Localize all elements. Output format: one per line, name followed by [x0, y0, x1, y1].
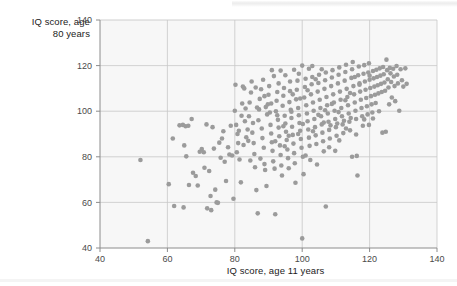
- data-point: [344, 62, 349, 67]
- data-point: [202, 165, 207, 170]
- data-point: [295, 87, 300, 92]
- data-point: [400, 78, 405, 83]
- x-tick-label: 140: [429, 254, 444, 264]
- data-point: [248, 158, 253, 163]
- data-point: [368, 86, 373, 91]
- data-point: [276, 118, 281, 123]
- data-point: [313, 133, 318, 138]
- data-point: [320, 130, 325, 135]
- data-point: [193, 174, 198, 179]
- data-point: [181, 205, 186, 210]
- data-point: [339, 106, 344, 111]
- data-point: [404, 82, 409, 87]
- data-point: [261, 145, 266, 150]
- data-point: [393, 99, 398, 104]
- data-point: [386, 85, 391, 90]
- data-point: [309, 92, 314, 97]
- data-point: [364, 96, 369, 101]
- data-point: [387, 102, 392, 107]
- data-point: [294, 97, 299, 102]
- data-point: [323, 78, 328, 83]
- data-point: [350, 60, 355, 65]
- data-point: [290, 92, 295, 97]
- data-point: [330, 75, 335, 80]
- data-point: [363, 79, 368, 84]
- data-point: [383, 88, 388, 93]
- data-point: [348, 91, 353, 96]
- data-point: [213, 187, 218, 192]
- data-point: [342, 118, 347, 123]
- data-point: [212, 146, 217, 151]
- data-point: [263, 168, 268, 173]
- data-point: [361, 72, 366, 77]
- data-point: [354, 154, 359, 159]
- data-point: [230, 153, 235, 158]
- data-point: [202, 150, 207, 155]
- data-point: [333, 149, 338, 154]
- data-point: [315, 162, 320, 167]
- data-point: [403, 66, 408, 71]
- data-point: [237, 129, 242, 134]
- data-point: [256, 118, 261, 123]
- data-point: [273, 139, 278, 144]
- data-point: [315, 89, 320, 94]
- data-point: [311, 108, 316, 113]
- x-tick-label: 100: [295, 254, 310, 264]
- data-point: [204, 122, 209, 127]
- data-point: [218, 155, 223, 160]
- data-point: [278, 153, 283, 158]
- data-point: [381, 72, 386, 77]
- data-point: [327, 145, 332, 150]
- data-point: [170, 136, 175, 141]
- data-point: [389, 80, 394, 85]
- data-point: [304, 103, 309, 108]
- data-point: [292, 161, 297, 166]
- data-point: [260, 136, 265, 141]
- data-point: [344, 87, 349, 92]
- x-axis-label: IQ score, age 11 years: [227, 265, 325, 276]
- data-point: [205, 206, 210, 211]
- data-point: [344, 126, 349, 131]
- data-point: [350, 67, 355, 72]
- data-point: [271, 159, 276, 164]
- data-point: [323, 204, 328, 209]
- y-tick-label: 140: [77, 15, 92, 25]
- data-point: [383, 129, 388, 134]
- data-point: [365, 104, 370, 109]
- data-point: [278, 68, 283, 73]
- data-point: [346, 103, 351, 108]
- data-point: [336, 81, 341, 86]
- data-point: [355, 173, 360, 178]
- data-point: [362, 117, 367, 122]
- data-point: [281, 93, 286, 98]
- data-point: [382, 80, 387, 85]
- data-point: [261, 77, 266, 82]
- y-tick-label: 60: [82, 198, 92, 208]
- data-point: [233, 108, 238, 113]
- data-point: [249, 90, 254, 95]
- data-point: [264, 184, 269, 189]
- data-point: [352, 92, 357, 97]
- data-point: [138, 158, 143, 163]
- data-point: [354, 132, 359, 137]
- data-point: [270, 68, 275, 73]
- data-point: [337, 138, 342, 143]
- data-point: [352, 75, 357, 80]
- data-point: [338, 89, 343, 94]
- data-point: [224, 179, 229, 184]
- data-point: [323, 70, 328, 75]
- data-point: [311, 129, 316, 134]
- data-point: [317, 98, 322, 103]
- data-point: [243, 106, 248, 111]
- data-point: [367, 73, 372, 78]
- data-point: [228, 123, 233, 128]
- data-point: [396, 81, 401, 86]
- data-point: [331, 92, 336, 97]
- data-point: [195, 183, 200, 188]
- data-point: [284, 129, 289, 134]
- data-point: [358, 89, 363, 94]
- data-point: [209, 208, 214, 213]
- data-point: [239, 180, 244, 185]
- data-point: [328, 136, 333, 141]
- data-point: [292, 151, 297, 156]
